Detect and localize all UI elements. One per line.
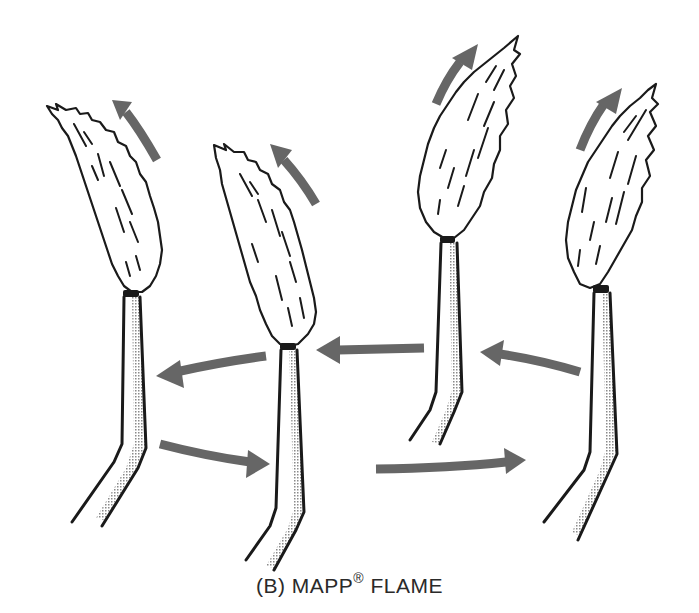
torch-1-tip [123,290,139,297]
torch-2-tip [280,343,296,350]
torch-4-tip [593,285,609,293]
registered-mark: ® [353,570,364,586]
motion-arrow-2-to-4 [376,448,526,474]
torch-3-tube [410,243,441,440]
caption-prefix: (B) MAPP [256,574,353,597]
motion-arrow-4-to-3 [480,340,580,372]
figure-caption: (B) MAPP® FLAME [0,572,699,598]
torch-3 [410,36,520,444]
motion-arrow-2-to-1 [156,356,266,388]
torch-1 [47,100,162,526]
motion-arrow-1-to-2 [160,444,270,478]
torch-4 [544,84,658,540]
caption-suffix: FLAME [364,574,443,597]
motion-arrow-3-to-2 [316,336,424,364]
torch-4-tube [544,293,594,522]
mapp-flame-diagram [0,0,699,613]
torch-3-tip [440,236,455,243]
